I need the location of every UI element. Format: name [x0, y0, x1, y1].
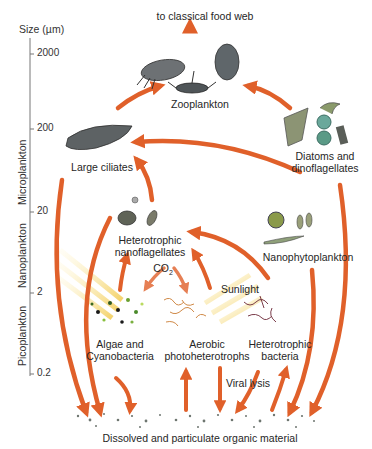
- label-heterotrophic-bacteria: Heterotrophic bacteria: [240, 338, 320, 362]
- tick-20: 20: [37, 205, 48, 216]
- diagram-graphics: [0, 0, 372, 449]
- label-classical-food-web: to classical food web: [150, 10, 260, 22]
- co2-subscript: 2: [169, 269, 173, 276]
- tick-200: 200: [37, 122, 54, 133]
- label-het-bact-line2: bacteria: [240, 350, 320, 362]
- label-sunlight: Sunlight: [215, 283, 265, 295]
- label-algae-line2: Cyanobacteria: [80, 350, 160, 362]
- label-diatoms-line2: dinoflagellates: [285, 162, 365, 174]
- heterotrophic-bacteria-cluster: [244, 296, 276, 322]
- label-viral-lysis: Viral lysis: [218, 377, 278, 389]
- label-nanophytoplankton: Nanophytoplankton: [253, 251, 363, 263]
- label-algae-line1: Algae and: [80, 338, 160, 350]
- label-co2: CO2: [148, 262, 178, 279]
- label-heterotrophic-nanoflagellates: Heterotrophic nanoflagellates: [110, 234, 190, 258]
- label-het-nano-line1: Heterotrophic: [110, 234, 190, 246]
- tick-2000: 2000: [37, 47, 59, 58]
- label-organic-material: Dissolved and particulate organic materi…: [60, 432, 340, 444]
- label-het-bact-line1: Heterotrophic: [240, 338, 320, 350]
- tick-0.2: 0.2: [37, 367, 51, 378]
- organic-material-particles: [77, 413, 315, 428]
- label-het-nano-line2: nanoflagellates: [110, 246, 190, 258]
- co2-text: CO: [153, 262, 169, 274]
- label-zooplankton: Zooplankton: [160, 98, 240, 110]
- large-ciliate-illustration: [66, 125, 132, 149]
- band-microplankton: Microplankton: [16, 140, 28, 205]
- label-diatoms: Diatoms and dinoflagellates: [285, 150, 365, 174]
- tick-2: 2: [37, 286, 43, 297]
- label-diatoms-line1: Diatoms and: [285, 150, 365, 162]
- label-algae-cyanobacteria: Algae and Cyanobacteria: [80, 338, 160, 362]
- axis-title: Size (µm): [19, 23, 64, 35]
- aerobic-photoheterotrophs-cluster: [164, 298, 206, 326]
- algae-cluster: [91, 298, 144, 324]
- band-nanoplankton: Nanoplankton: [16, 223, 28, 288]
- label-large-ciliates: Large ciliates: [62, 161, 142, 173]
- diatoms-illustration: [284, 103, 348, 146]
- band-picoplankton: Picoplankton: [16, 306, 28, 366]
- nanophytoplankton-illustration: [264, 212, 312, 244]
- size-axis: [30, 38, 34, 376]
